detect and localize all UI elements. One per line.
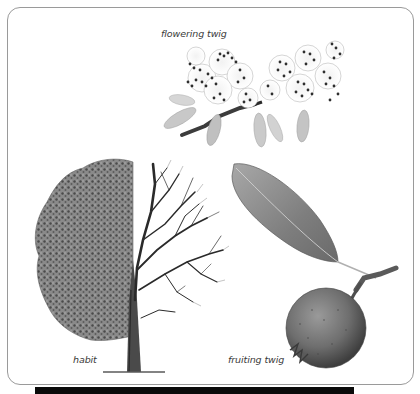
caption-fruiting-twig: fruiting twig [228,354,284,365]
flowering-twig-illustration [160,38,360,150]
bottom-bar [35,387,354,394]
caption-flowering-twig: flowering twig [161,28,227,39]
habit-tree-illustration [25,150,235,380]
fruiting-twig-illustration [228,160,408,370]
caption-habit: habit [73,354,97,365]
